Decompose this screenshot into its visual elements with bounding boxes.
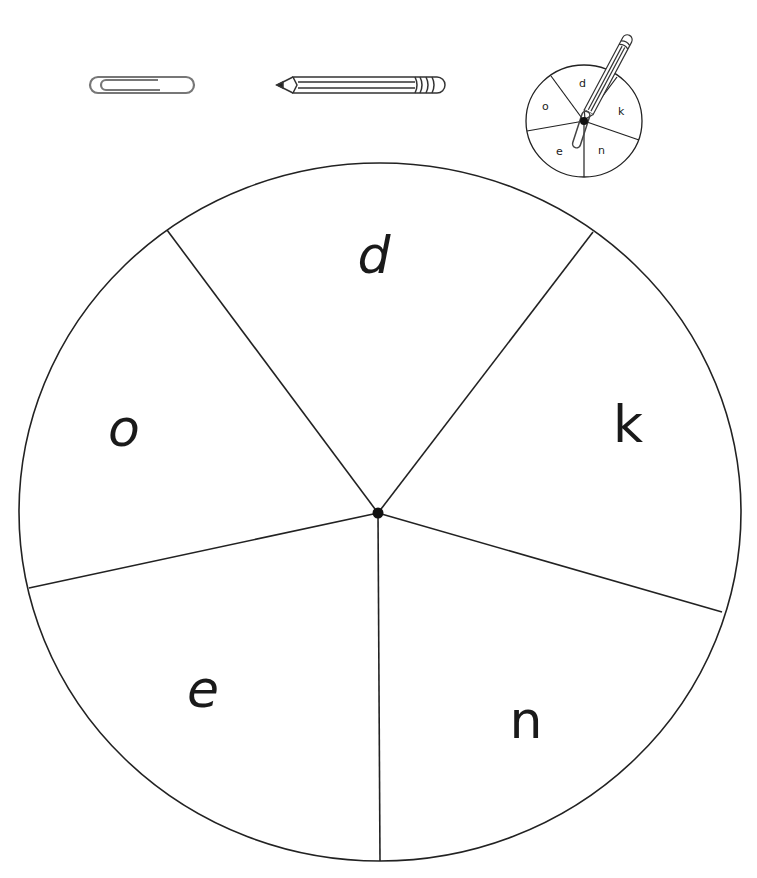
main-spinner[interactable]: d k n e o <box>19 163 741 861</box>
example-letter-e: e <box>556 145 563 158</box>
example-letter-d: d <box>579 77 586 90</box>
example-letter-k: k <box>618 105 625 118</box>
paperclip-icon <box>90 77 194 93</box>
segment-letter-k: k <box>613 394 643 454</box>
example-center-pin-icon <box>580 117 588 125</box>
pencil-icon <box>277 77 445 93</box>
example-letter-o: o <box>542 100 549 113</box>
segment-letter-d: d <box>357 225 391 285</box>
spinner-worksheet: d k n e o <box>0 0 757 878</box>
center-pin-icon <box>373 508 384 519</box>
example-letter-n: n <box>598 144 605 157</box>
example-spinner-icon: d k n e o <box>526 33 642 177</box>
segment-letter-e: e <box>187 659 219 719</box>
segment-letter-n: n <box>510 690 543 750</box>
segment-letter-o: o <box>108 398 140 458</box>
